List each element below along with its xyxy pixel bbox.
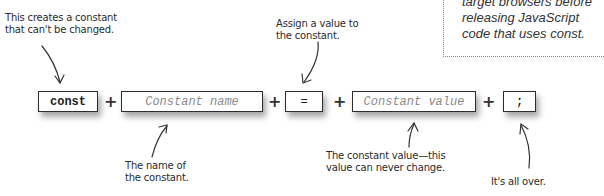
tile-const-keyword: const: [38, 91, 98, 112]
tile-label: Constant value: [364, 95, 465, 109]
tile-label: const: [50, 95, 86, 109]
tile-label: ;: [516, 95, 523, 109]
arrow-end: [521, 125, 530, 168]
plus-operator: +: [104, 92, 117, 111]
arrow-name: [152, 126, 167, 157]
plus-operator: +: [268, 92, 281, 111]
tile-label: =: [300, 95, 307, 109]
arrow-assign: [304, 42, 318, 82]
tile-equals: =: [285, 91, 323, 112]
arrow-value: [409, 124, 414, 147]
tile-constant-name: Constant name: [121, 91, 263, 112]
tile-semicolon: ;: [503, 91, 536, 112]
plus-operator: +: [333, 92, 346, 111]
arrow-const: [42, 46, 60, 82]
tile-constant-value: Constant value: [352, 91, 476, 112]
plus-operator: +: [482, 92, 495, 111]
tile-label: Constant name: [145, 95, 239, 109]
